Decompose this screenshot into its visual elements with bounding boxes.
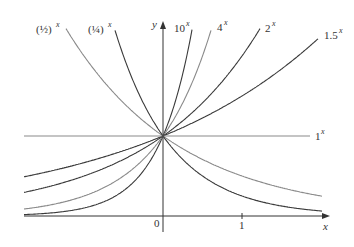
curve-4-x <box>24 30 211 209</box>
label-quarter: (¼) x <box>88 20 112 36</box>
label-onefive: 1.5 x <box>324 26 343 41</box>
svg-text:x: x <box>271 19 276 28</box>
y-axis-arrow-icon <box>160 21 166 29</box>
tick-label-0: 0 <box>154 217 160 229</box>
svg-text:4: 4 <box>217 21 223 33</box>
x-axis-arrow-icon <box>322 213 330 219</box>
svg-text:10: 10 <box>174 22 186 34</box>
svg-text:x: x <box>320 127 325 136</box>
label-one: 1 x <box>315 127 325 142</box>
svg-text:1.5: 1.5 <box>324 29 338 41</box>
label-two: 2 x <box>265 19 276 34</box>
curves <box>24 29 322 215</box>
curve--1-4--x <box>115 30 322 211</box>
svg-text:x: x <box>107 20 112 29</box>
label-four: 4 x <box>217 18 228 33</box>
svg-text:x: x <box>223 18 228 27</box>
tick-label-1: 1 <box>239 219 245 231</box>
svg-text:x: x <box>55 20 60 29</box>
exponential-functions-chart: 0 1 x y (½) x (¼) x 10 x 4 x 2 x 1.5 x 1… <box>0 0 354 247</box>
curve--1-2--x <box>66 29 322 197</box>
y-axis-label: y <box>151 18 157 30</box>
label-ten: 10 x <box>174 19 190 34</box>
svg-text:2: 2 <box>265 22 271 34</box>
label-half: (½) x <box>36 20 60 36</box>
svg-text:1: 1 <box>315 130 321 142</box>
svg-text:x: x <box>338 26 343 35</box>
curve-1.5-x <box>24 39 318 177</box>
svg-text:x: x <box>185 19 190 28</box>
curve-2-x <box>24 29 260 193</box>
svg-text:(¼): (¼) <box>88 23 104 36</box>
x-axis-label: x <box>322 220 328 232</box>
svg-text:(½): (½) <box>36 23 52 36</box>
